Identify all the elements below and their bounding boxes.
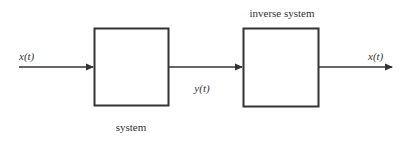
system-block [95,29,169,106]
input-signal-label: x(t) [18,50,35,63]
block-diagram: x(t) system y(t) inverse system x(t) [0,0,407,143]
inverse-system-block [244,29,319,107]
inverse-system-block-label: inverse system [249,7,315,19]
intermediate-signal-label: y(t) [193,82,210,95]
output-signal-label: x(t) [367,50,384,63]
system-block-label: system [116,121,147,133]
